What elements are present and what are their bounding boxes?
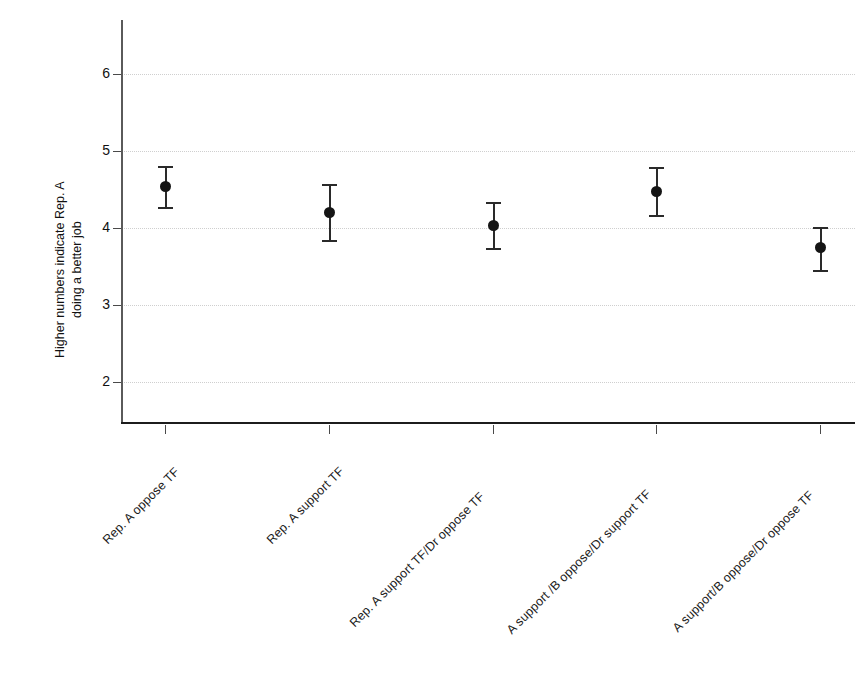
gridline-3 [122,305,855,306]
y-tick-label-4: 4 [88,219,110,235]
x-tick-mark-5 [820,425,821,434]
x-tick-mark-3 [493,425,494,434]
gridline-2 [122,382,855,383]
y-tick-label-2: 2 [88,373,110,389]
gridline-5 [122,151,855,152]
x-axis-line [121,422,855,424]
data-point-4 [651,186,662,197]
x-category-label-2: Rep. A support TF [264,464,347,547]
error-cap-upper-5 [813,227,828,229]
y-tick-label-3: 3 [88,296,110,312]
error-cap-lower-3 [486,248,501,250]
error-cap-upper-2 [322,184,337,186]
gridline-6 [122,74,855,75]
data-point-5 [815,242,826,253]
error-cap-lower-1 [158,207,173,209]
data-point-1 [160,181,171,192]
x-tick-mark-2 [329,425,330,434]
error-cap-lower-5 [813,270,828,272]
error-cap-upper-1 [158,166,173,168]
x-category-label-5: A support/B oppose/Dr oppose TF [670,488,817,635]
error-cap-upper-3 [486,202,501,204]
data-point-3 [488,220,499,231]
x-tick-mark-4 [656,425,657,434]
x-category-label-1: Rep. A oppose TF [100,465,182,547]
y-axis-line [121,20,123,424]
x-category-label-3: Rep. A support TF/Dr oppose TF [347,489,487,629]
error-cap-lower-2 [322,240,337,242]
error-bar-chart: Higher numbers indicate Rep. A doing a b… [0,0,860,674]
y-axis-title-line-1: Higher numbers indicate Rep. A [53,182,67,358]
y-axis-title-line-2: doing a better job [70,221,84,318]
x-category-label-4: A support /B oppose/Dr support TF [504,487,654,637]
y-tick-label-6: 6 [88,65,110,81]
y-tick-label-5: 5 [88,142,110,158]
data-point-2 [324,207,335,218]
error-cap-upper-4 [649,167,664,169]
error-cap-lower-4 [649,215,664,217]
y-axis-title: Higher numbers indicate Rep. A doing a b… [36,60,76,370]
x-tick-mark-1 [165,425,166,434]
